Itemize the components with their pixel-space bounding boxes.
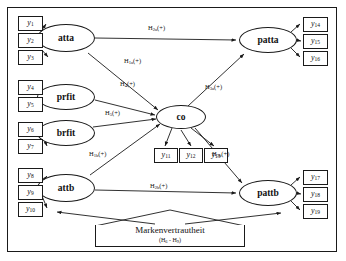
indicator-y5[interactable]: y5 (18, 97, 43, 112)
latent-co[interactable]: co (156, 105, 206, 129)
path-label-h1a: H1a(+) (124, 58, 141, 66)
path-label-h1b: H1b(+) (89, 151, 106, 159)
indicator-y10[interactable]: y10 (18, 202, 43, 217)
indicator-y18-label: y18 (311, 190, 320, 199)
indicator-y11-label: y11 (162, 151, 171, 160)
edge-co-patta (188, 54, 244, 106)
path-label-h4: H4(+) (120, 81, 135, 89)
edge-pattb-y17 (291, 177, 300, 185)
indicator-y1[interactable]: y1 (18, 16, 43, 31)
indicator-y11[interactable]: y11 (154, 148, 178, 163)
moderator-title: Markenvertrautheit (135, 226, 204, 235)
path-label-h5: H5(+) (105, 110, 120, 118)
path-label-h3b: H3b(+) (212, 151, 229, 159)
indicator-y7-label: y7 (27, 142, 33, 151)
indicator-y16[interactable]: y16 (303, 51, 328, 66)
moderator-box[interactable]: Markenvertrautheit (H6 - H9) (95, 225, 245, 247)
indicator-y12[interactable]: y12 (179, 148, 203, 163)
edge-prfit-co (95, 100, 155, 115)
indicator-y18[interactable]: y18 (303, 187, 328, 202)
path-label-h3a: H3a(+) (205, 84, 222, 92)
latent-patta[interactable]: patta (239, 27, 297, 53)
indicator-y5-label: y5 (27, 100, 33, 109)
indicator-y8[interactable]: y8 (18, 168, 43, 183)
moderator-hypothesis-range: (H6 - H9) (159, 237, 181, 245)
edge-patta-y16 (291, 48, 300, 57)
edge-brfit-co (93, 119, 156, 127)
latent-brfit-label: brfit (57, 128, 75, 138)
indicator-y9-label: y9 (27, 188, 33, 197)
indicator-y6-label: y6 (27, 125, 33, 134)
indicator-y10-label: y10 (26, 205, 35, 214)
latent-attb[interactable]: attb (37, 174, 95, 202)
edge-patta-y14 (291, 24, 300, 32)
indicator-y17-label: y17 (311, 173, 320, 182)
indicator-y15[interactable]: y15 (303, 34, 328, 49)
indicator-y2[interactable]: y2 (18, 33, 43, 48)
indicator-y17[interactable]: y17 (303, 170, 328, 185)
indicator-y1-label: y1 (27, 19, 33, 28)
latent-co-label: co (177, 112, 186, 122)
diagram-page: atta prfit brfit attb co patta pattb y1 … (0, 0, 346, 261)
latent-prfit-label: prfit (57, 92, 75, 102)
edge-co-y11 (165, 128, 172, 146)
indicator-y2-label: y2 (27, 36, 33, 45)
path-label-h2a: H2a(+) (148, 25, 165, 33)
indicator-y3[interactable]: y3 (18, 50, 43, 65)
indicator-y15-label: y15 (311, 37, 320, 46)
latent-brfit[interactable]: brfit (37, 120, 95, 146)
indicator-y9[interactable]: y9 (18, 185, 43, 200)
edge-atta-patta (95, 38, 236, 40)
moderator-bracket-top (95, 210, 245, 226)
edge-moderator-left (57, 212, 155, 224)
indicator-y14-label: y14 (311, 20, 320, 29)
latent-prfit[interactable]: prfit (37, 84, 95, 110)
indicator-y12-label: y12 (186, 151, 195, 160)
indicator-y6[interactable]: y6 (18, 122, 43, 137)
latent-atta-label: atta (58, 33, 74, 43)
latent-patta-label: patta (257, 35, 278, 45)
path-label-h2b: H2b(+) (150, 183, 167, 191)
indicator-y19-label: y19 (311, 207, 320, 216)
indicator-y19[interactable]: y19 (303, 204, 328, 219)
indicator-y4-label: y4 (27, 83, 33, 92)
indicator-y3-label: y3 (27, 53, 33, 62)
edge-moderator-right (185, 213, 281, 224)
edge-co-y12 (181, 130, 191, 146)
indicator-y7[interactable]: y7 (18, 139, 43, 154)
latent-pattb-label: pattb (257, 188, 279, 198)
indicator-y4[interactable]: y4 (18, 80, 43, 95)
latent-attb-label: attb (58, 183, 74, 193)
indicator-y14[interactable]: y14 (303, 17, 328, 32)
indicator-y16-label: y16 (311, 54, 320, 63)
latent-atta[interactable]: atta (37, 24, 95, 52)
indicator-y8-label: y8 (27, 171, 33, 180)
edge-pattb-y19 (291, 201, 300, 210)
latent-pattb[interactable]: pattb (239, 180, 297, 206)
